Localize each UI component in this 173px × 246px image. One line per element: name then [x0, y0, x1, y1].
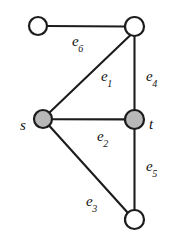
edges-group — [47, 26, 135, 213]
graph-vertex-v_t — [125, 110, 144, 129]
graph-figure: e6e1e4e2e5e3st — [0, 0, 173, 246]
edge-label-subscript: 2 — [103, 138, 108, 149]
graph-vertex-v_bottom — [125, 210, 144, 229]
edge-label-subscript: 6 — [78, 43, 83, 54]
graph-vertex-v_topright — [125, 17, 144, 36]
edge-label-e1: e1 — [101, 69, 113, 87]
edge-label-subscript: 5 — [152, 168, 157, 179]
edge-label-e5: e5 — [146, 159, 158, 177]
graph-edge-e1 — [50, 36, 131, 113]
edge-label-e3: e3 — [86, 194, 98, 212]
edge-label-subscript: 1 — [107, 78, 112, 89]
edge-label-e6: e6 — [72, 34, 84, 52]
graph-vertex-v_topleft — [29, 17, 47, 35]
edge-label-subscript: 3 — [92, 203, 97, 214]
graph-edge-e6 — [47, 26, 125, 27]
vertex-label-v_t: t — [149, 117, 153, 132]
edge-label-subscript: 4 — [152, 78, 157, 89]
edge-label-e4: e4 — [146, 69, 158, 87]
graph-vertex-v_s — [34, 110, 52, 128]
edge-label-e2: e2 — [97, 129, 109, 147]
vertex-label-v_s: s — [20, 118, 26, 133]
